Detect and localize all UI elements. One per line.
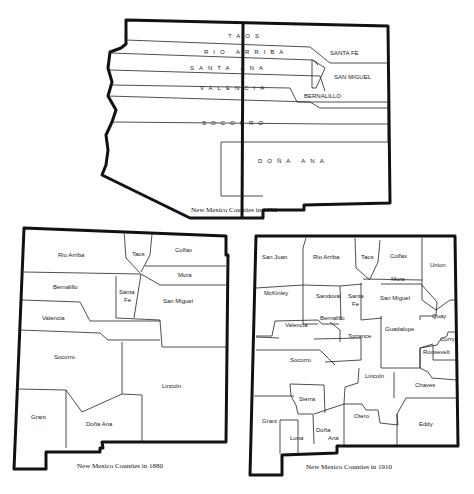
county-label-santaana-1852: SANTA ANA [190,65,268,71]
county-label-otero-1910: Otero [354,413,370,419]
county-label-sanjuan-1910: San Juan [262,254,287,260]
county-label-ana-1910: Ana [328,435,339,441]
map-1880: Rio Arriba Taos Colfax Mora Bernalillo S… [14,228,228,469]
county-label-quay-1910: Quay [432,313,446,319]
county-label-curry-1910: Curry [440,336,455,342]
county-label-donaana-1852: DOÑA ANA [258,158,329,164]
county-label-bernalillo-1880: Bernalillo [53,284,78,290]
county-label-santa-1880: Santa [119,289,135,295]
county-label-rioarriba-1880: Rio Arriba [58,252,85,258]
county-label-roosevelt-1910: Roosevelt [423,349,450,355]
county-label-valencia-1910: Valencia [285,322,308,328]
county-label-rioarriba-1910: Rio Arriba [313,254,340,260]
county-label-mora-1880: Mora [178,272,192,278]
county-label-santa-1910: Santa [348,293,364,299]
county-label-taos-1852: TAOS [228,33,264,39]
county-label-bernalillo-1910: Bernalillo [320,315,345,321]
county-label-dona-1910: Doña [316,427,331,433]
county-label-sandoval-1910: Sandoval [316,293,341,299]
county-label-eddy-1910: Eddy [419,421,433,427]
county-label-guadalupe-1910: Guadalupe [385,326,415,332]
map-1910-outline [250,236,458,475]
county-label-grant-1910: Grant [262,418,277,424]
county-label-socorro-1910: Socorro [290,357,312,363]
maps-canvas: TAOS RIO ARRIBA SANTA ANA VALENCIA SOCOR… [0,0,474,494]
county-label-sanmiguel-1910: San Miguel [380,295,410,301]
county-label-colfax-1880: Colfax [175,247,192,253]
county-label-rioarriba-1852: RIO ARRIBA [204,49,288,55]
county-label-socorro-1852: SOCORRO [202,120,268,126]
map-1880-outline [14,228,228,469]
county-label-union-1910: Union [430,262,446,268]
county-label-valencia-1852: VALENCIA [200,85,269,91]
county-label-taos-1910: Taos [361,254,374,260]
county-label-sierra-1910: Sierra [299,396,316,402]
county-label-grant-1880: Grant [31,414,46,420]
county-label-santafe-1852: SANTA FE [330,50,359,56]
county-label-donaana-1880: Doña Ana [86,421,113,427]
county-label-chaves-1910: Chaves [415,382,435,388]
map-1852: TAOS RIO ARRIBA SANTA ANA VALENCIA SOCOR… [102,20,390,218]
county-label-sanmiguel-1852: SAN MIGUEL [334,74,372,80]
county-label-lincoln-1880: Lincoln [162,383,181,389]
county-label-sanmiguel-1880: San Miguel [163,298,193,304]
county-label-mora-1910: Mora [391,276,405,282]
county-label-socorro-1880: Socorro [54,354,76,360]
caption-1910: New Mexico Counties in 1910 [306,463,392,471]
caption-1852: New Mexico Counties in 1852 [191,206,277,214]
map-1910: San Juan Rio Arriba Taos Colfax Union Mo… [250,236,458,475]
county-label-fe-1880: Fe [124,297,132,303]
county-label-taos-1880: Taos [132,251,145,257]
county-label-mckinley-1910: McKinley [264,290,288,296]
county-label-lincoln-1910: Lincoln [365,373,384,379]
county-label-bernalillo-1852: BERNALILLO [304,93,341,99]
county-label-fe-1910: Fe [352,301,360,307]
county-label-valencia-1880: Valencia [42,315,65,321]
caption-1880: New Mexico Counties in 1880 [77,462,163,470]
county-label-colfax-1910: Colfax [390,253,407,259]
county-label-luna-1910: Luna [290,435,304,441]
county-label-torrance-1910: Torrance [348,333,372,339]
